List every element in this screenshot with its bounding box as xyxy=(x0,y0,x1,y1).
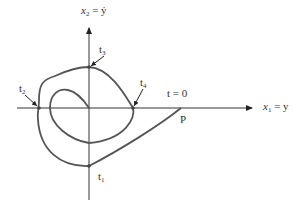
start-point-label: P xyxy=(180,114,186,125)
start-time-label: t = 0 xyxy=(167,88,187,99)
t3-label: t3 xyxy=(99,44,106,57)
trajectory-curve xyxy=(38,67,181,166)
t2-marker xyxy=(37,106,41,110)
t4-pointer-arrow xyxy=(134,89,143,106)
t1-label: t1 xyxy=(98,171,105,184)
t3-marker xyxy=(87,65,91,69)
t4-label: t4 xyxy=(140,77,147,90)
t4-marker xyxy=(131,106,135,110)
x1-axis-label: x1 = y xyxy=(263,101,289,114)
phase-plane-diagram xyxy=(0,0,302,211)
t2-pointer-arrow xyxy=(25,95,37,106)
x2-axis-label: x2 = ẏ xyxy=(81,5,107,18)
t3-pointer-arrow xyxy=(91,56,104,66)
t2-label: t2 xyxy=(19,83,26,96)
t1-marker xyxy=(87,164,91,168)
